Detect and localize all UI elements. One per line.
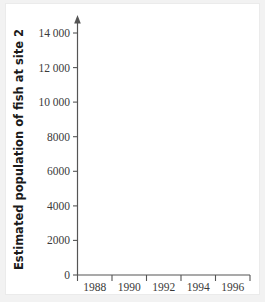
y-axis-arrow-icon <box>74 15 81 24</box>
y-tick-label: 12 000 <box>38 62 70 74</box>
y-tick-label: 10 000 <box>38 96 70 108</box>
x-tick-label: 1996 <box>221 281 244 293</box>
x-axis-tick-labels: 1988 1990 1992 1994 1996 <box>83 281 244 293</box>
y-axis-ticks <box>73 33 78 275</box>
x-tick-label: 1992 <box>152 281 175 293</box>
y-tick-label: 6000 <box>47 165 70 177</box>
y-axis-tick-labels: 0 2000 4000 6000 8000 10 000 12 000 14 0… <box>38 27 70 281</box>
y-tick-label: 8000 <box>47 131 70 143</box>
x-tick-label: 1994 <box>187 281 210 293</box>
y-tick-label: 14 000 <box>38 27 70 39</box>
x-tick-label: 1990 <box>118 281 141 293</box>
x-tick-label: 1988 <box>83 281 106 293</box>
y-tick-label: 0 <box>64 269 70 281</box>
chart-figure: Estimated population of fish at site 2 0 <box>0 0 265 302</box>
y-tick-label: 2000 <box>47 234 70 246</box>
empty-fish-population-chart: Estimated population of fish at site 2 0 <box>0 0 265 302</box>
plot-area <box>78 20 250 275</box>
y-axis-title: Estimated population of fish at site 2 <box>12 29 26 270</box>
y-tick-label: 4000 <box>47 200 70 212</box>
chart-page: Estimated population of fish at site 2 0 <box>0 0 265 302</box>
